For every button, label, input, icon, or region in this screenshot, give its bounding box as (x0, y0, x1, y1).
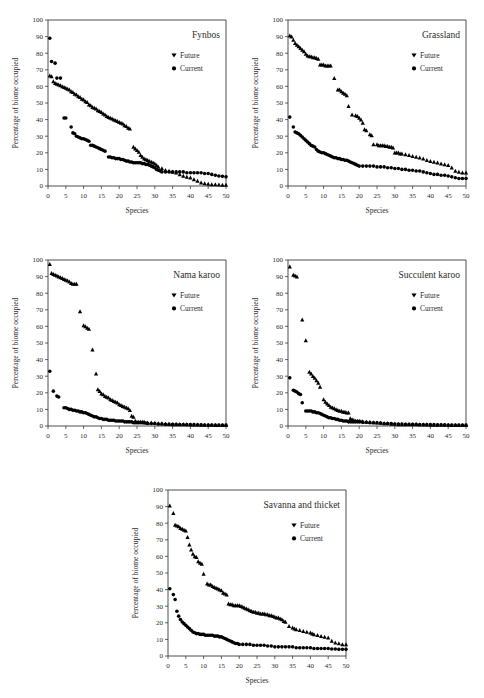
data-point-circle (404, 423, 408, 427)
y-tick-label: 0 (160, 652, 164, 660)
y-tick-label: 100 (273, 16, 284, 24)
data-point-circle (365, 164, 369, 168)
y-tick-label: 0 (40, 182, 44, 190)
data-point-circle (393, 167, 397, 171)
data-point-triangle (326, 636, 330, 640)
data-point-circle (69, 125, 73, 129)
legend-label: Future (420, 51, 440, 60)
data-point-circle (221, 423, 225, 427)
data-point-triangle (301, 629, 305, 633)
x-tick-label: 30 (391, 432, 399, 440)
data-point-triangle (464, 171, 468, 175)
legend-label: Future (180, 51, 200, 60)
circle-marker-icon (292, 536, 296, 540)
x-tick-label: 20 (356, 432, 364, 440)
data-point-triangle (318, 385, 322, 389)
panel-title: Nama karoo (173, 270, 220, 280)
x-tick-label: 50 (343, 662, 351, 670)
data-point-circle (379, 165, 383, 169)
x-tick-label: 20 (356, 192, 364, 200)
data-point-circle (326, 647, 330, 651)
data-point-circle (288, 376, 292, 380)
data-point-circle (255, 643, 259, 647)
x-tick-label: 10 (200, 662, 208, 670)
data-point-circle (224, 423, 228, 427)
data-point-circle (196, 171, 200, 175)
data-point-circle (421, 423, 425, 427)
x-tick-label: 15 (218, 662, 226, 670)
series-current (288, 115, 468, 180)
y-tick-label: 70 (276, 306, 284, 314)
data-point-circle (167, 423, 171, 427)
data-point-triangle (435, 161, 439, 165)
data-point-circle (217, 423, 221, 427)
data-point-triangle (432, 160, 436, 164)
x-tick-label: 15 (98, 192, 106, 200)
data-point-triangle (421, 156, 425, 160)
data-point-circle (386, 422, 390, 426)
legend-label: Current (420, 304, 444, 313)
y-tick-label: 100 (33, 256, 44, 264)
data-point-triangle (304, 338, 308, 342)
panel-grassland: 0102030405060708090100051015202530354045… (248, 6, 476, 228)
data-point-circle (160, 422, 164, 426)
panel-savanna-and-thicket: 0102030405060708090100051015202530354045… (128, 476, 356, 698)
data-point-circle (361, 421, 365, 425)
data-point-circle (157, 422, 161, 426)
data-point-triangle (171, 511, 175, 515)
y-tick-label: 50 (276, 339, 284, 347)
data-point-triangle (337, 641, 341, 645)
data-point-triangle (323, 635, 327, 639)
circle-marker-icon (172, 306, 176, 310)
x-tick-label: 30 (151, 432, 159, 440)
data-point-circle (185, 423, 189, 427)
data-point-circle (214, 423, 218, 427)
data-point-circle (280, 645, 284, 649)
data-point-circle (382, 165, 386, 169)
x-axis-title: Species (126, 446, 149, 455)
data-point-triangle (439, 161, 443, 165)
y-tick-label: 0 (280, 422, 284, 430)
data-point-circle (171, 423, 175, 427)
data-point-circle (210, 173, 214, 177)
y-tick-label: 60 (36, 83, 44, 91)
x-tick-label: 40 (187, 192, 195, 200)
legend-label: Future (420, 291, 440, 300)
x-tick-label: 40 (307, 662, 315, 670)
y-tick-label: 30 (36, 133, 44, 141)
x-tick-label: 10 (320, 192, 328, 200)
y-tick-label: 30 (276, 373, 284, 381)
y-tick-label: 30 (276, 133, 284, 141)
data-point-circle (149, 422, 153, 426)
data-point-circle (414, 169, 418, 173)
x-tick-label: 25 (374, 192, 382, 200)
data-point-circle (221, 175, 225, 179)
data-point-circle (436, 423, 440, 427)
panel-nama-karoo: 0102030405060708090100051015202530354045… (8, 246, 236, 468)
y-tick-label: 20 (156, 619, 164, 627)
data-point-circle (174, 423, 178, 427)
x-tick-label: 20 (116, 432, 124, 440)
y-tick-label: 50 (36, 99, 44, 107)
data-point-circle (312, 647, 316, 651)
data-point-triangle (189, 548, 193, 552)
data-point-triangle (224, 183, 228, 187)
data-point-circle (103, 149, 107, 153)
y-tick-label: 60 (276, 83, 284, 91)
data-point-circle (300, 401, 304, 405)
series-future (48, 73, 228, 186)
data-point-circle (292, 125, 296, 129)
x-tick-label: 0 (286, 192, 290, 200)
data-point-circle (266, 644, 270, 648)
y-tick-label: 70 (36, 306, 44, 314)
panel-title: Succulent karoo (399, 270, 461, 280)
y-tick-label: 90 (276, 33, 284, 41)
data-point-triangle (195, 179, 199, 183)
x-axis-title: Species (246, 676, 269, 685)
y-tick-label: 90 (36, 273, 44, 281)
triangle-marker-icon (171, 293, 176, 297)
data-point-circle (288, 115, 292, 119)
data-point-triangle (298, 628, 302, 632)
x-tick-label: 15 (338, 432, 346, 440)
data-point-circle (464, 177, 468, 181)
